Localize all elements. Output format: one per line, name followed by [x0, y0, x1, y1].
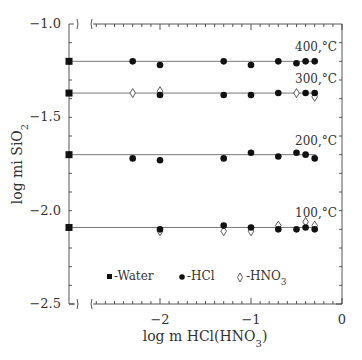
svg-text:−2.5: −2.5 [29, 296, 61, 311]
legend-hno3-marker [238, 273, 243, 282]
x-axis-title: log m HCl(HNO3) [143, 328, 268, 349]
svg-text:100,°C: 100,°C [295, 206, 337, 220]
svg-text:300,°C: 300,°C [295, 72, 337, 86]
axis-ticks [69, 24, 342, 304]
svg-text:400,°C: 400,°C [295, 40, 337, 54]
chart: −1.0−1.5−2.0−2.5−2−10 400,°C300,°C200,°C… [0, 0, 362, 360]
svg-text:−1: −1 [241, 312, 260, 327]
legend-water-marker [107, 274, 112, 279]
svg-text:−1.5: −1.5 [29, 109, 61, 124]
plot-frame [69, 19, 342, 309]
legend-hcl-label: -HCl [187, 269, 215, 283]
svg-text:200,°C: 200,°C [295, 134, 337, 148]
legend-hno3-label: -HNO3 [246, 269, 287, 287]
svg-text:−1.0: −1.0 [29, 16, 61, 31]
fit-lines [69, 61, 316, 227]
y-axis-title: log mi SiO2 [9, 124, 30, 204]
legend: -Water -HCl -HNO3 [107, 269, 287, 287]
legend-hcl-marker [179, 274, 185, 280]
temperature-labels: 400,°C300,°C200,°C100,°C [295, 40, 337, 220]
legend-water-label: -Water [114, 269, 154, 283]
svg-text:0: 0 [338, 312, 346, 327]
data-points [66, 58, 319, 236]
svg-text:−2.0: −2.0 [29, 203, 61, 218]
svg-text:−2: −2 [150, 312, 169, 327]
